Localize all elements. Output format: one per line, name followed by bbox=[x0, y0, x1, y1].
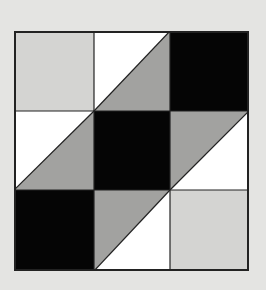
quilt-cell-r1-c0 bbox=[14, 111, 94, 190]
quilt-cell-r1-c2 bbox=[170, 111, 249, 190]
quilt-grid bbox=[14, 31, 249, 271]
quilt-cell-r2-c1 bbox=[94, 190, 170, 271]
quilt-block-diagram bbox=[14, 31, 249, 271]
quilt-cell-r1-c1 bbox=[94, 111, 170, 190]
quilt-cell-r2-c2 bbox=[170, 190, 249, 271]
quilt-cell-r0-c2 bbox=[170, 31, 249, 111]
quilt-cell-r0-c1 bbox=[94, 31, 170, 111]
quilt-cell-r0-c0 bbox=[14, 31, 94, 111]
quilt-cell-r2-c0 bbox=[14, 190, 94, 271]
